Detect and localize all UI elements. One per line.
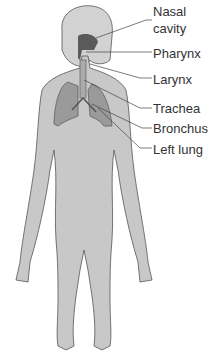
label-nasal-cavity-line1: Nasal: [153, 5, 186, 18]
label-nasal-cavity-line2: cavity: [153, 22, 186, 35]
label-larynx: Larynx: [153, 73, 192, 86]
label-left-lung: Left lung: [153, 143, 203, 156]
label-trachea: Trachea: [153, 102, 200, 115]
label-bronchus: Bronchus: [153, 122, 208, 135]
label-pharynx: Pharynx: [153, 47, 201, 60]
trachea: [80, 60, 86, 98]
